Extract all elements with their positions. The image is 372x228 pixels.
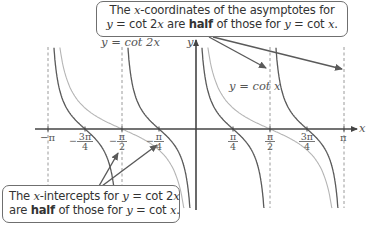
callout-intercepts-line2: are half of those for y = cot x.	[9, 203, 173, 217]
axis-x-label: x	[359, 121, 366, 135]
axis-y-label: y	[187, 35, 194, 49]
x-tick-label: −π2	[117, 132, 127, 151]
x-tick-label: 3π4	[299, 132, 315, 151]
axis-y-label-text: y	[187, 35, 194, 49]
x-tick-label: −π4	[154, 132, 164, 151]
x-tick-label: −π	[40, 132, 55, 143]
callout-asymptotes-line2: y = cot 2x are half of those for y = cot…	[103, 17, 341, 31]
callout-asymptotes-line1: The x-coordinates of the asymptotes for	[103, 3, 341, 17]
label-cotx-text: y = cot x	[229, 79, 281, 93]
callout-arrows	[99, 37, 342, 186]
axis-x-label-text: x	[359, 121, 366, 135]
label-cotx: y = cot x	[229, 79, 281, 93]
x-tick-label: π	[340, 132, 347, 143]
callout-intercepts-line1: The x-intercepts for y = cot 2x	[9, 189, 173, 203]
x-tick-label: π4	[228, 132, 238, 151]
x-tick-label: π2	[265, 132, 275, 151]
x-tick-label: −3π4	[77, 132, 93, 151]
label-cot2x: y = cot 2x	[101, 35, 160, 49]
label-cot2x-text: y = cot 2x	[101, 35, 160, 49]
callout-intercepts: The x-intercepts for y = cot 2x are half…	[2, 185, 180, 223]
callout-arrow	[209, 37, 266, 68]
graph-stage: y = cot 2x y = cot x y x −π−3π4−π2−π4π4π…	[0, 0, 372, 228]
callout-asymptotes: The x-coordinates of the asymptotes for …	[96, 1, 348, 37]
